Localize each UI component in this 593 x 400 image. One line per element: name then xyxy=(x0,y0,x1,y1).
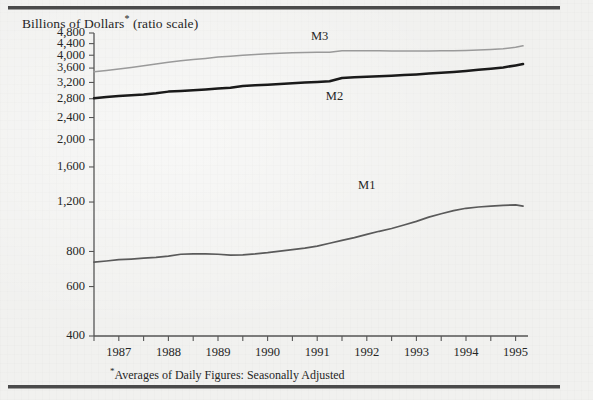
x-axis-tick-label: 1987 xyxy=(106,345,131,359)
x-axis-tick-label: 1991 xyxy=(305,345,330,359)
x-axis-tick-label: 1990 xyxy=(255,345,280,359)
x-axis-tick-label: 1994 xyxy=(454,345,480,359)
chart-plot-area: 4,8004,4004,0003,6003,2002,8002,4002,000… xyxy=(0,0,593,400)
x-axis-tick-label: 1995 xyxy=(503,345,528,359)
series-label-m3: M3 xyxy=(311,29,328,43)
y-axis-tick-label: 3,200 xyxy=(57,75,85,89)
y-axis-tick-label: 2,800 xyxy=(57,91,85,105)
y-axis-tick-label: 800 xyxy=(66,244,85,258)
chart-footnote: *Averages of Daily Figures: Seasonally A… xyxy=(110,366,345,383)
chart-svg: 4,8004,4004,0003,6003,2002,8002,4002,000… xyxy=(0,0,593,400)
y-axis-tick-label: 2,400 xyxy=(57,110,85,124)
y-axis-tick-label: 600 xyxy=(66,279,85,293)
series-label-m1: M1 xyxy=(358,178,375,192)
series-label-m2: M2 xyxy=(326,89,343,103)
x-axis-tick-label: 1992 xyxy=(354,345,379,359)
series-line-m2 xyxy=(94,64,523,98)
x-axis-tick-label: 1989 xyxy=(206,345,231,359)
footnote-text: Averages of Daily Figures: Seasonally Ad… xyxy=(115,368,345,382)
series-line-m1 xyxy=(94,205,523,262)
y-axis-tick-label: 1,200 xyxy=(57,194,85,208)
chart-page: Billions of Dollars* (ratio scale) 4,800… xyxy=(0,0,593,400)
series-line-m3 xyxy=(94,46,523,72)
y-axis-tick-label: 400 xyxy=(66,328,85,342)
x-axis-tick-label: 1988 xyxy=(156,345,181,359)
x-axis-tick-label: 1993 xyxy=(404,345,429,359)
y-axis-tick-label: 3,600 xyxy=(57,60,85,74)
y-axis-tick-label: 2,000 xyxy=(57,132,85,146)
y-axis-tick-label: 1,600 xyxy=(57,159,85,173)
